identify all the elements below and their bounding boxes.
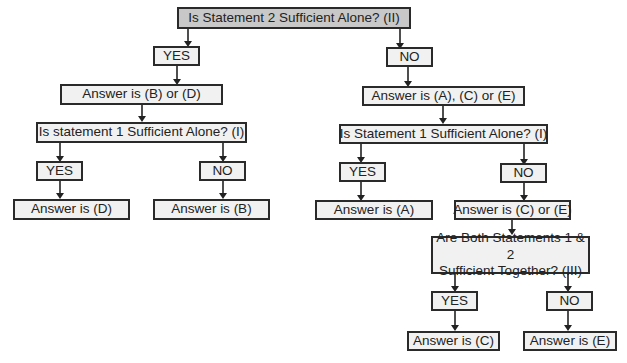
right-no2-label: NO [513,165,533,182]
right-answer-c-text: Answer is (C) [413,333,494,350]
right-question-text: Is Statement 1 Sufficient Alone? (I) [340,126,548,143]
left-question-box: Is statement 1 Sufficient Alone? (I) [36,122,247,143]
right-no-label: NO [399,49,419,66]
right-answer-c-box: Answer is (C) [407,331,500,351]
both-statements-question-box: Are Both Statements 1 & 2 Sufficient Tog… [431,236,590,274]
question3-line1: Are Both Statements 1 & 2 [433,230,588,264]
right-result-box: Answer is (A), (C) or (E) [362,86,525,106]
left-yes-box: YES [153,46,200,66]
right-yes2-box: YES [339,162,386,182]
right-no-box: NO [386,47,433,67]
right-answer-e-text: Answer is (E) [530,333,610,350]
right-answer-e-box: Answer is (E) [523,331,617,351]
root-question-text: Is Statement 2 Sufficient Alone? (II) [188,10,399,27]
left-no2-box: NO [199,161,246,181]
left-result-box: Answer is (B) or (D) [60,84,223,105]
left-answer-d-box: Answer is (D) [13,199,130,220]
left-answer-b-text: Answer is (B) [171,201,251,218]
right-result-text: Answer is (A), (C) or (E) [371,88,515,105]
left-yes2-box: YES [36,161,83,181]
right-yes3-label: YES [441,293,468,310]
left-yes-label: YES [163,48,190,65]
right-no3-label: NO [559,293,579,310]
left-answer-b-box: Answer is (B) [153,199,270,220]
right-yes2-label: YES [349,164,376,181]
left-result-text: Answer is (B) or (D) [82,86,201,103]
right-yes3-box: YES [431,291,478,311]
question3-line2: Sufficient Together? (III) [439,263,582,280]
left-answer-d-text: Answer is (D) [31,201,112,218]
right-answer-a-text: Answer is (A) [334,202,414,219]
root-question-box: Is Statement 2 Sufficient Alone? (II) [177,7,411,29]
right-answer-ce-box: Answer is (C) or (E) [454,200,571,220]
left-no2-label: NO [212,163,232,180]
right-no3-box: NO [546,291,593,311]
right-no2-box: NO [500,163,547,183]
right-answer-a-box: Answer is (A) [315,200,433,220]
right-answer-ce-text: Answer is (C) or (E) [453,202,572,219]
left-yes2-label: YES [46,163,73,180]
left-question-text: Is statement 1 Sufficient Alone? (I) [39,124,244,141]
right-question-box: Is Statement 1 Sufficient Alone? (I) [339,124,548,144]
